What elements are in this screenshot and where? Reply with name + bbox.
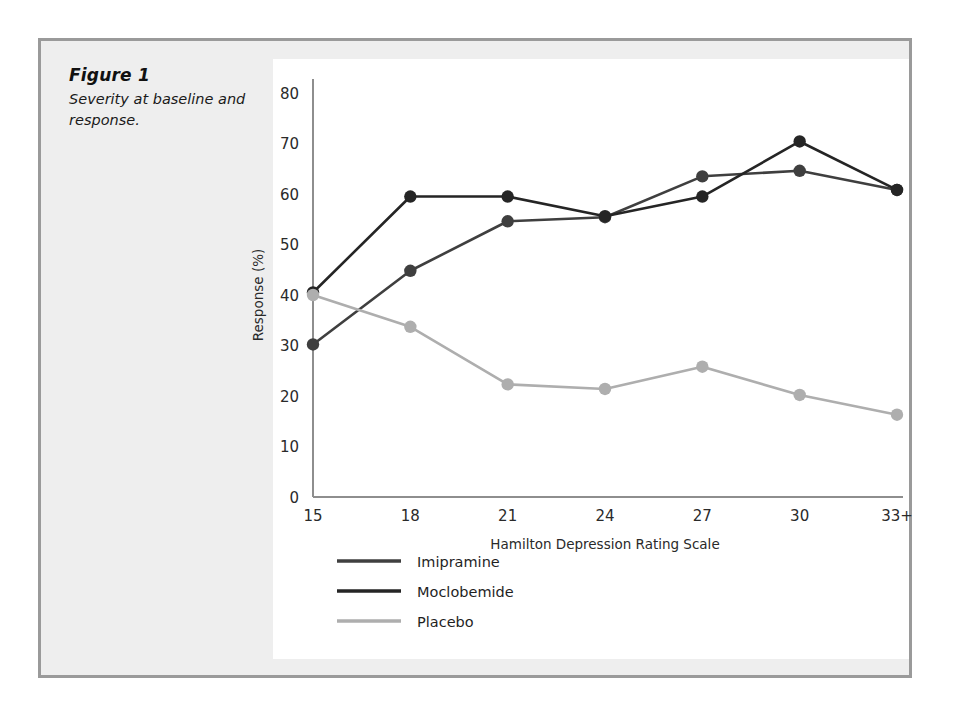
plot-canvas-background xyxy=(273,59,909,659)
figure-caption-text: Severity at baseline and response. xyxy=(69,89,259,131)
figure-panel: Figure 1 Severity at baseline and respon… xyxy=(38,38,912,678)
figure-caption: Figure 1 Severity at baseline and respon… xyxy=(69,65,259,131)
y-axis-title: Response (%) xyxy=(250,249,266,342)
figure-root: Figure 1 Severity at baseline and respon… xyxy=(0,0,962,716)
figure-caption-title: Figure 1 xyxy=(69,65,259,86)
